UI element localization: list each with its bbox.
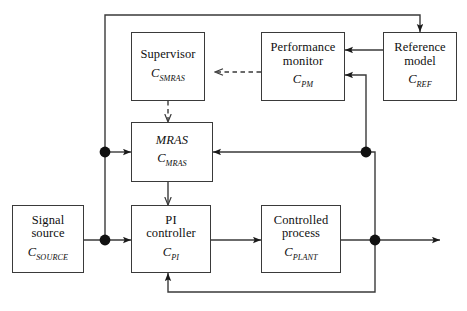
wire-output-to-performance-monitor	[345, 75, 366, 152]
node-performance-monitor[interactable]: Performance monitor CPM	[261, 32, 345, 101]
junction-dot-mras-input	[100, 147, 111, 158]
node-signal-source-symbol-sub: SOURCE	[36, 252, 68, 261]
node-controlled-process-symbol-sub: PLANT	[293, 252, 318, 261]
node-controlled-process-title: Controlled process	[274, 214, 328, 241]
node-controlled-process-symbol: CPLANT	[284, 245, 317, 265]
node-mras-symbol-sub: MRAS	[166, 159, 187, 168]
node-signal-source[interactable]: Signal source CSOURCE	[12, 205, 84, 273]
node-reference-model-symbol-sub: REF	[417, 80, 432, 89]
node-signal-source-symbol-base: C	[28, 245, 36, 259]
junction-dot-feedback-split	[361, 147, 372, 158]
node-pi-controller-title: PI controller	[146, 214, 196, 241]
node-supervisor-symbol: CSMRAS	[151, 66, 185, 86]
node-controlled-process[interactable]: Controlled process CPLANT	[261, 205, 341, 273]
node-reference-model-title: Reference model	[394, 41, 446, 68]
node-supervisor-symbol-sub: SMRAS	[159, 73, 185, 82]
node-performance-monitor-symbol: CPM	[293, 72, 313, 92]
node-performance-monitor-symbol-base: C	[293, 72, 301, 86]
node-pi-controller-symbol: CPI	[163, 245, 179, 265]
junction-dot-source-branch	[100, 235, 111, 246]
node-reference-model[interactable]: Reference model CREF	[383, 32, 457, 101]
node-supervisor[interactable]: Supervisor CSMRAS	[131, 32, 205, 101]
node-signal-source-symbol: CSOURCE	[28, 245, 68, 265]
node-pi-controller[interactable]: PI controller CPI	[131, 205, 211, 273]
node-reference-model-symbol: CREF	[408, 72, 432, 92]
block-diagram: Supervisor CSMRAS Performance monitor CP…	[0, 0, 467, 311]
node-reference-model-symbol-base: C	[408, 72, 416, 86]
node-pi-controller-symbol-base: C	[163, 245, 171, 259]
node-mras-symbol-base: C	[157, 151, 165, 165]
node-pi-controller-symbol-sub: PI	[171, 252, 179, 261]
junction-dot-output	[370, 235, 381, 246]
node-mras-title: MRAS	[156, 134, 188, 148]
node-mras-symbol: CMRAS	[157, 151, 187, 171]
node-controlled-process-symbol-base: C	[284, 245, 292, 259]
node-mras[interactable]: MRAS CMRAS	[131, 122, 213, 182]
node-performance-monitor-symbol-sub: PM	[301, 80, 313, 89]
node-signal-source-title: Signal source	[31, 214, 64, 241]
node-supervisor-title: Supervisor	[140, 48, 195, 62]
node-performance-monitor-title: Performance monitor	[271, 41, 336, 68]
